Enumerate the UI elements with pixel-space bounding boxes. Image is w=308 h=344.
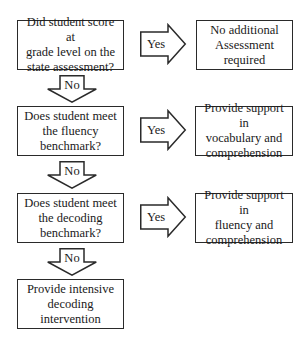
- decision-text-line: the fluency: [24, 124, 116, 139]
- outcome-text-line: vocabulary and: [200, 131, 288, 146]
- yes-arrow-3: Yes: [140, 197, 186, 237]
- decision-text-line: Does student meet: [24, 196, 116, 211]
- decision-text-line: benchmark?: [24, 226, 116, 241]
- final-box-intensive-decoding-intervention: Provide intensive decoding intervention: [17, 279, 124, 329]
- no-label: No: [60, 78, 84, 92]
- yes-label: Yes: [142, 123, 170, 137]
- no-label: No: [60, 251, 84, 265]
- outcome-text-line: fluency and: [200, 218, 288, 233]
- outcome-text-line: comprehension: [200, 233, 288, 248]
- yes-arrow-1: Yes: [140, 24, 186, 64]
- no-arrow-2: No: [47, 161, 97, 189]
- outcome-text-line: Provide support in: [200, 101, 288, 131]
- outcome-box-fluency-comprehension: Provide support in fluency and comprehen…: [195, 193, 293, 243]
- decision-box-decoding-benchmark: Does student meet the decoding benchmark…: [17, 193, 124, 243]
- outcome-text-line: comprehension: [200, 146, 288, 161]
- outcome-box-vocabulary-comprehension: Provide support in vocabulary and compre…: [195, 106, 293, 156]
- decision-text-line: grade level on the: [22, 45, 119, 60]
- outcome-text-line: No additional: [210, 23, 278, 38]
- final-text-line: intervention: [27, 312, 114, 327]
- decision-text-line: benchmark?: [24, 139, 116, 154]
- yes-label: Yes: [142, 37, 170, 51]
- final-text-line: decoding: [27, 297, 114, 312]
- yes-arrow-2: Yes: [140, 110, 186, 150]
- decision-box-state-assessment: Did student score at grade level on the …: [17, 20, 124, 70]
- decision-text-line: Did student score at: [22, 15, 119, 45]
- yes-label: Yes: [142, 210, 170, 224]
- decision-box-fluency-benchmark: Does student meet the fluency benchmark?: [17, 106, 124, 156]
- decision-text-line: the decoding: [24, 211, 116, 226]
- no-label: No: [60, 164, 84, 178]
- no-arrow-1: No: [47, 75, 97, 103]
- outcome-box-no-additional-assessment: No additional Assessment required: [196, 20, 293, 70]
- decision-text-line: state assessment?: [22, 60, 119, 75]
- outcome-text-line: Assessment: [210, 38, 278, 53]
- outcome-text-line: required: [210, 53, 278, 68]
- outcome-text-line: Provide support in: [200, 188, 288, 218]
- no-arrow-3: No: [47, 248, 97, 276]
- decision-text-line: Does student meet: [24, 109, 116, 124]
- final-text-line: Provide intensive: [27, 282, 114, 297]
